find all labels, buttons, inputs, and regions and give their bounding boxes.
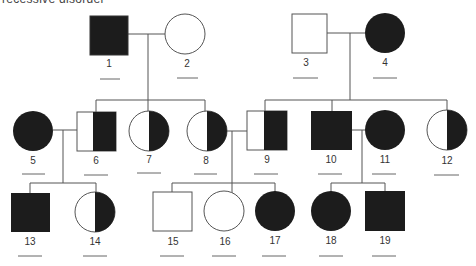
label-19: 19	[379, 235, 391, 246]
label-2: 2	[184, 58, 190, 69]
individual-13	[11, 193, 50, 232]
label-17: 17	[269, 235, 281, 246]
individual-2	[165, 14, 205, 54]
pedigree-chart: 1 2 3 4 5 6 7 8 9 10 11 12 13 14 15 16 1…	[0, 0, 476, 266]
individual-10	[311, 111, 352, 150]
individual-6	[77, 112, 116, 151]
label-16: 16	[219, 236, 231, 247]
label-7: 7	[146, 154, 152, 165]
label-5: 5	[30, 155, 36, 166]
label-10: 10	[325, 154, 337, 165]
individual-12	[427, 110, 467, 150]
individual-19	[365, 191, 405, 231]
individual-7	[129, 111, 169, 151]
label-18: 18	[325, 235, 337, 246]
individual-9	[247, 111, 287, 150]
individual-5	[13, 111, 53, 151]
individual-4	[365, 13, 405, 53]
label-9: 9	[264, 154, 270, 165]
individual-14	[75, 192, 115, 232]
label-8: 8	[203, 155, 209, 166]
individual-3	[292, 14, 327, 53]
individual-17	[255, 191, 295, 231]
label-4: 4	[382, 57, 388, 68]
label-12: 12	[441, 155, 453, 166]
label-15: 15	[167, 236, 179, 247]
label-6: 6	[93, 155, 99, 166]
individual-11	[365, 110, 405, 150]
individual-1	[90, 16, 128, 55]
individual-16	[204, 191, 244, 231]
label-11: 11	[380, 154, 391, 165]
label-13: 13	[24, 236, 36, 247]
label-14: 14	[89, 236, 101, 247]
individual-8	[187, 111, 227, 151]
label-1: 1	[106, 58, 112, 69]
individual-15	[153, 192, 192, 231]
label-3: 3	[303, 57, 309, 68]
individual-18	[311, 191, 351, 231]
